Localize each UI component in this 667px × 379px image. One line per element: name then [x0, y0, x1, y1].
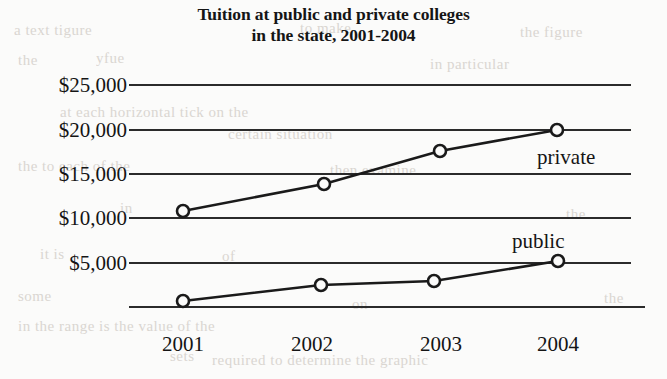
plot-area [0, 0, 667, 379]
data-point-public-2003 [428, 275, 440, 287]
chart-figure: a text tigure to make the figure the yfu… [0, 0, 667, 379]
data-point-private-2001 [177, 205, 189, 217]
data-point-private-2003 [434, 145, 446, 157]
data-point-private-2004 [551, 124, 563, 136]
data-point-public-2001 [177, 295, 189, 307]
data-point-public-2002 [315, 279, 327, 291]
series-private [177, 124, 563, 217]
data-point-public-2004 [552, 255, 564, 267]
data-point-private-2002 [318, 178, 330, 190]
gridlines [129, 85, 645, 307]
series-private-line [183, 130, 557, 211]
series-public-line [183, 261, 558, 301]
